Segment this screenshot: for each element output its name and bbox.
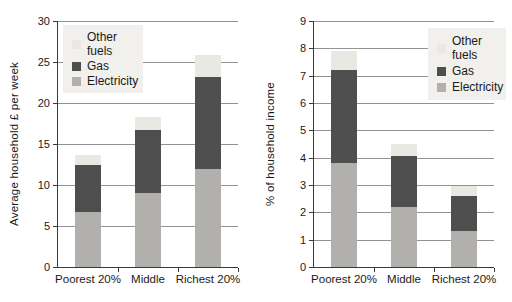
- y-tick-label: 3: [272, 178, 306, 192]
- electricity-swatch-icon: [72, 77, 81, 86]
- y-axis-tick: [53, 185, 57, 186]
- y-tick-label: 2: [272, 205, 306, 219]
- other_fuels-swatch-icon: [437, 44, 446, 53]
- bar-segment-other_fuels: [451, 186, 477, 196]
- y-tick-label: 8: [272, 41, 306, 55]
- bar-segment-other_fuels: [391, 144, 417, 156]
- y-axis-tick: [53, 62, 57, 63]
- x-category-label: Richest 20%: [176, 273, 241, 285]
- x-axis-tick: [118, 268, 119, 272]
- x-axis-tick: [178, 268, 179, 272]
- y-axis-tick: [309, 158, 313, 159]
- legend-label: Electricity: [452, 80, 503, 94]
- chart-weekly-spend: Average household £ per week 05101520253…: [0, 0, 256, 302]
- legend-item-gas: Gas: [72, 59, 137, 73]
- x-axis-tick: [494, 268, 495, 272]
- y-tick-label: 5: [272, 123, 306, 137]
- bar-segment-gas: [195, 77, 221, 169]
- x-category-label: Middle: [131, 273, 165, 285]
- bar-segment-electricity: [391, 207, 417, 267]
- y-tick-label: 0: [16, 260, 50, 274]
- bar-segment-gas: [331, 70, 357, 163]
- legend-label: Gas: [452, 64, 474, 78]
- y-tick-label: 6: [272, 96, 306, 110]
- bar-segment-electricity: [331, 163, 357, 267]
- x-category-label: Poorest 20%: [311, 273, 377, 285]
- legend-item-other_fuels: Other fuels: [72, 30, 137, 58]
- bar-segment-electricity: [451, 231, 477, 267]
- y-tick-label: 30: [16, 14, 50, 28]
- bar-segment-gas: [135, 130, 161, 193]
- gas-swatch-icon: [72, 62, 81, 71]
- legend: Other fuelsGasElectricity: [63, 25, 143, 93]
- bar-segment-gas: [391, 156, 417, 207]
- legend-label: Electricity: [87, 74, 138, 88]
- x-axis-tick: [434, 268, 435, 272]
- bar-segment-other_fuels: [195, 55, 221, 77]
- bar-segment-other_fuels: [75, 155, 101, 164]
- y-axis-tick: [309, 103, 313, 104]
- bar-segment-electricity: [195, 169, 221, 267]
- y-tick-label: 15: [16, 137, 50, 151]
- y-axis-tick: [53, 267, 57, 268]
- x-category-label: Middle: [387, 273, 421, 285]
- gas-swatch-icon: [437, 67, 446, 76]
- gridline: [314, 21, 494, 22]
- bar-segment-other_fuels: [331, 51, 357, 70]
- bar-segment-other_fuels: [135, 117, 161, 130]
- y-axis-tick: [53, 144, 57, 145]
- y-axis-tick: [309, 130, 313, 131]
- y-axis-tick: [309, 21, 313, 22]
- y-axis-tick: [309, 240, 313, 241]
- y-tick-label: 20: [16, 96, 50, 110]
- y-axis-tick: [309, 212, 313, 213]
- bar-segment-gas: [451, 196, 477, 232]
- legend-item-other_fuels: Other fuels: [437, 34, 500, 62]
- x-category-label: Poorest 20%: [55, 273, 121, 285]
- x-axis-tick: [238, 268, 239, 272]
- bar-segment-electricity: [75, 212, 101, 267]
- gridline: [58, 21, 238, 22]
- y-axis-tick: [309, 267, 313, 268]
- y-axis-tick: [309, 76, 313, 77]
- y-axis-tick: [53, 103, 57, 104]
- bar-segment-electricity: [135, 193, 161, 267]
- chart-income-share: % of household income 0123456789Poorest …: [256, 0, 512, 302]
- legend: Other fuelsGasElectricity: [428, 28, 506, 100]
- y-axis-tick: [53, 21, 57, 22]
- y-tick-label: 25: [16, 55, 50, 69]
- y-axis-tick: [309, 185, 313, 186]
- y-axis-tick: [53, 226, 57, 227]
- x-axis-tick: [374, 268, 375, 272]
- x-category-label: Richest 20%: [432, 273, 497, 285]
- y-tick-label: 9: [272, 14, 306, 28]
- legend-label: Other fuels: [452, 34, 500, 62]
- legend-item-electricity: Electricity: [72, 74, 137, 88]
- y-tick-label: 1: [272, 233, 306, 247]
- legend-item-gas: Gas: [437, 64, 500, 78]
- legend-label: Other fuels: [87, 30, 137, 58]
- fuel-spending-figure: Average household £ per week 05101520253…: [0, 0, 512, 302]
- bar-segment-gas: [75, 165, 101, 213]
- y-tick-label: 7: [272, 69, 306, 83]
- other_fuels-swatch-icon: [72, 40, 81, 49]
- y-tick-label: 0: [272, 260, 306, 274]
- y-axis-tick: [309, 48, 313, 49]
- legend-label: Gas: [87, 59, 109, 73]
- y-tick-label: 4: [272, 151, 306, 165]
- y-tick-label: 10: [16, 178, 50, 192]
- legend-item-electricity: Electricity: [437, 80, 500, 94]
- y-tick-label: 5: [16, 219, 50, 233]
- electricity-swatch-icon: [437, 83, 446, 92]
